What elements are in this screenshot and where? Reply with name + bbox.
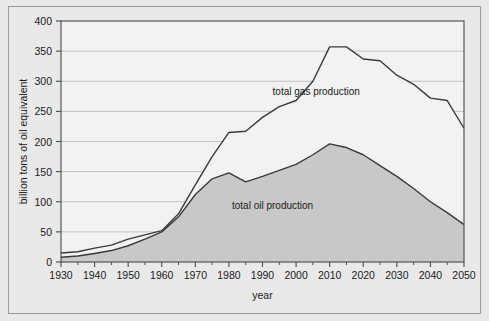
x-tick-label: 1960 [150, 269, 174, 281]
x-axis-tick-labels: 1930194019501960197019801990200020102020… [49, 269, 476, 281]
x-tick-label: 2010 [318, 269, 342, 281]
figure-frame: 1930194019501960197019801990200020102020… [8, 6, 481, 314]
y-tick-label: 350 [34, 45, 52, 57]
x-tick-label: 2000 [284, 269, 308, 281]
y-axis-tick-labels: 050100150200250300350400 [34, 15, 52, 268]
series-annotation: total gas production [273, 86, 360, 97]
y-tick-label: 150 [34, 166, 52, 178]
x-tick-label: 1940 [83, 269, 107, 281]
y-tick-label: 0 [46, 256, 52, 268]
y-axis-title: billion tons of oil equivalent [17, 79, 29, 205]
production-area-chart: 1930194019501960197019801990200020102020… [9, 7, 480, 313]
y-tick-label: 300 [34, 75, 52, 87]
y-tick-label: 400 [34, 15, 52, 27]
x-axis-ticks [61, 262, 464, 267]
x-tick-label: 1950 [116, 269, 140, 281]
series-annotation: total oil production [232, 200, 313, 211]
x-tick-label: 1970 [184, 269, 208, 281]
y-tick-label: 50 [40, 226, 52, 238]
x-tick-label: 1930 [49, 269, 73, 281]
y-tick-label: 100 [34, 196, 52, 208]
x-tick-label: 2050 [452, 269, 476, 281]
figure-container: 1930194019501960197019801990200020102020… [0, 0, 489, 321]
x-tick-label: 2020 [352, 269, 376, 281]
x-tick-label: 1980 [217, 269, 241, 281]
x-axis-title: year [252, 289, 273, 301]
y-tick-label: 200 [34, 136, 52, 148]
x-tick-label: 1990 [251, 269, 275, 281]
x-tick-label: 2040 [419, 269, 443, 281]
x-tick-label: 2030 [385, 269, 409, 281]
y-tick-label: 250 [34, 105, 52, 117]
y-axis-ticks [56, 21, 61, 262]
